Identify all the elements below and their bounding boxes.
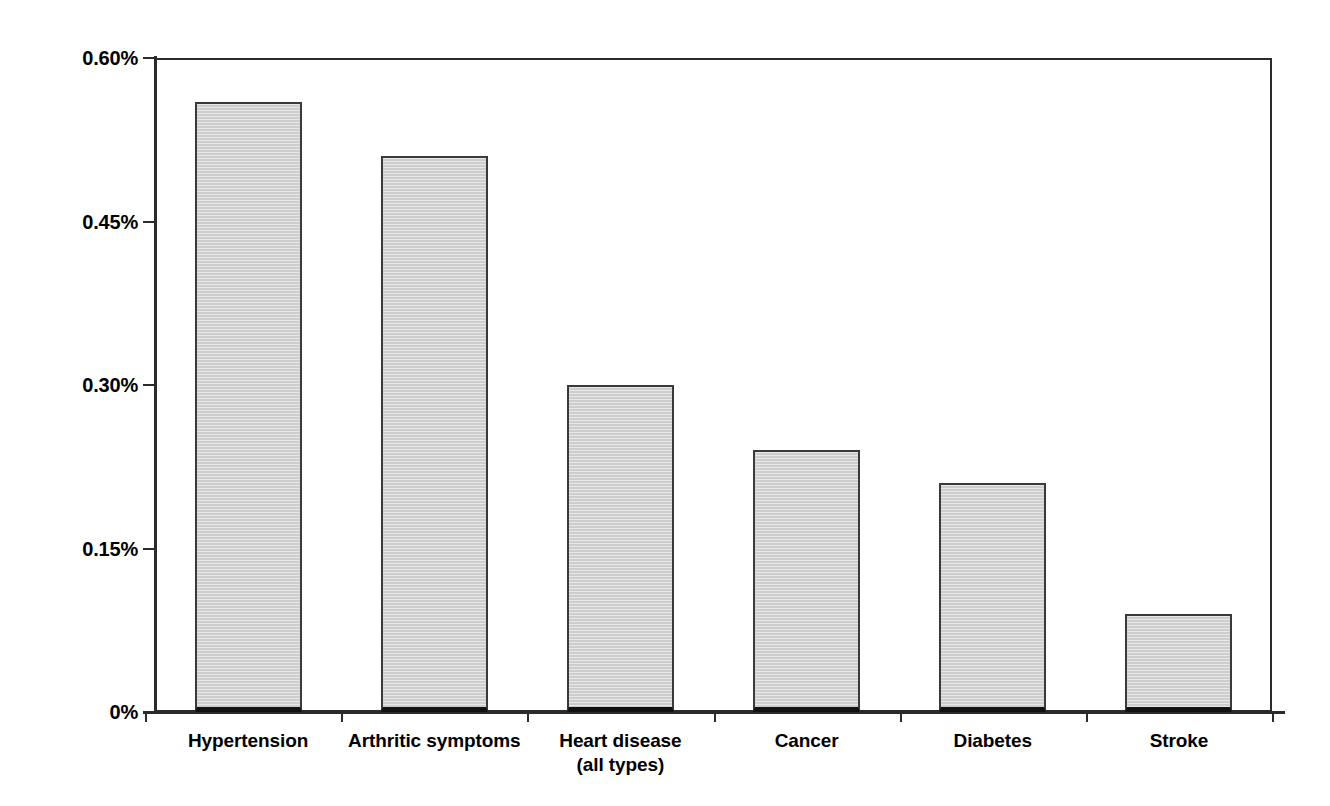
x-axis-tick xyxy=(527,711,529,722)
bar xyxy=(195,102,302,712)
x-axis-category-label: Cancer xyxy=(714,729,900,753)
y-axis-tick-label: 0.30% xyxy=(0,375,138,395)
x-axis-category-label: Arthritic symptoms xyxy=(341,729,527,753)
x-axis-tick xyxy=(341,711,343,722)
bar xyxy=(567,385,674,712)
y-axis-tick-label: 0% xyxy=(0,702,138,722)
x-axis-category-label: Stroke xyxy=(1086,729,1272,753)
y-axis-tick xyxy=(143,548,155,550)
y-axis-tick-label: 0.60% xyxy=(0,48,138,68)
y-axis-tick-label: 0.15% xyxy=(0,539,138,559)
x-axis-tick xyxy=(145,711,147,722)
plot-area-frame xyxy=(155,58,1272,712)
y-axis-tick xyxy=(143,384,155,386)
bar xyxy=(753,450,860,712)
x-axis-tick xyxy=(1086,711,1088,722)
y-axis-tick xyxy=(143,221,155,223)
bar xyxy=(939,483,1046,712)
y-axis-tick xyxy=(143,57,155,59)
x-axis-tick xyxy=(1272,711,1274,722)
x-axis-category-label: Diabetes xyxy=(900,729,1086,753)
bar xyxy=(1125,614,1232,712)
x-axis-category-label: Heart disease (all types) xyxy=(527,729,713,777)
x-axis-tick xyxy=(714,711,716,722)
x-axis-tick xyxy=(900,711,902,722)
x-axis-category-label: Hypertension xyxy=(155,729,341,753)
y-axis-tick-label: 0.45% xyxy=(0,212,138,232)
bar xyxy=(381,156,488,712)
bar-chart: 0%0.15%0.30%0.45%0.60% HypertensionArthr… xyxy=(0,0,1330,806)
